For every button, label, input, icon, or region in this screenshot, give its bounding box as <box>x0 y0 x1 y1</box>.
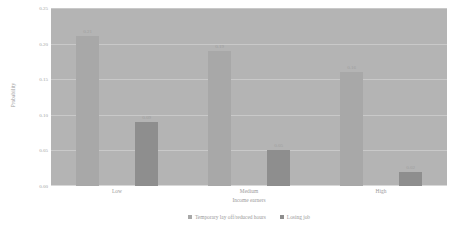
legend-item[interactable]: Losing job <box>280 214 310 220</box>
y-axis-tick-labels: 0.000.050.100.150.200.25 <box>24 8 50 186</box>
bar-group: 0.190.05 <box>183 8 315 186</box>
y-axis-tick: 0.25 <box>39 6 48 11</box>
chart-legend: Temporary lay off/reduced hoursLosing jo… <box>51 214 447 220</box>
bar[interactable]: 0.21 <box>76 36 99 186</box>
y-axis-tick: 0.05 <box>39 148 48 153</box>
bar-value-label: 0.02 <box>406 165 415 170</box>
bar[interactable]: 0.05 <box>267 150 290 186</box>
y-axis-tick: 0.20 <box>39 41 48 46</box>
x-axis-title: Income earners <box>51 197 447 203</box>
legend-item-label: Temporary lay off/reduced hours <box>195 214 266 220</box>
bar[interactable]: 0.02 <box>399 172 422 186</box>
bar[interactable]: 0.09 <box>135 122 158 186</box>
bar-chart: Probability 0.000.050.100.150.200.25 0.2… <box>0 0 456 238</box>
legend-item-label: Losing job <box>287 214 310 220</box>
bar-value-label: 0.09 <box>142 115 151 120</box>
legend-swatch-icon <box>280 215 284 219</box>
bar-value-label: 0.16 <box>347 65 356 70</box>
bar-group: 0.210.09 <box>51 8 183 186</box>
legend-swatch-icon <box>188 215 192 219</box>
y-axis-title-label: Probability <box>10 83 16 108</box>
bar-value-label: 0.05 <box>274 143 283 148</box>
bar-value-label: 0.19 <box>215 44 224 49</box>
bar-group: 0.160.02 <box>315 8 447 186</box>
bar-groups: 0.210.090.190.050.160.02 <box>51 8 447 186</box>
bar-value-label: 0.21 <box>83 29 92 34</box>
bar[interactable]: 0.16 <box>340 72 363 186</box>
y-axis-tick: 0.15 <box>39 77 48 82</box>
y-axis-tick: 0.10 <box>39 112 48 117</box>
legend-item[interactable]: Temporary lay off/reduced hours <box>188 214 266 220</box>
y-axis-title: Probability <box>2 0 24 190</box>
bar[interactable]: 0.19 <box>208 51 231 186</box>
y-axis-tick: 0.00 <box>39 184 48 189</box>
plot-area: 0.210.090.190.050.160.02 <box>51 8 447 186</box>
